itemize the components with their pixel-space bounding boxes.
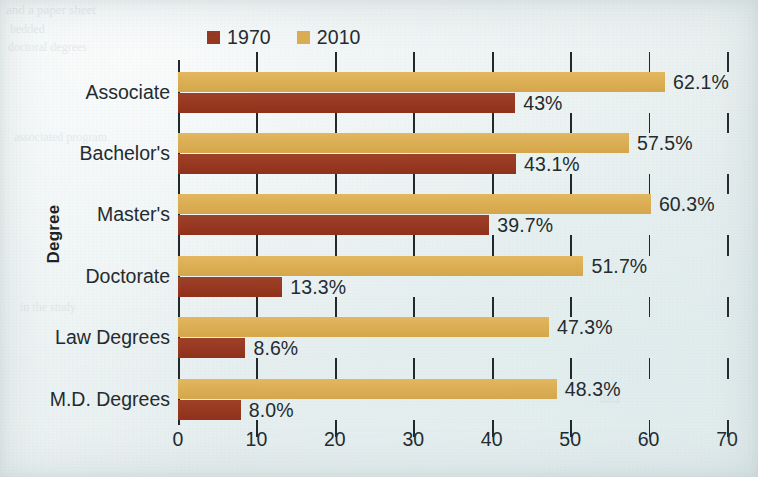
x-tick-label-70: 70 — [716, 430, 738, 450]
gridline-30 — [413, 113, 415, 133]
bar-label-2010-3: 51.7% — [591, 257, 647, 277]
gridline-20 — [335, 235, 337, 256]
x-tick-label-40: 40 — [481, 430, 503, 450]
x-tick-label-50: 50 — [559, 430, 581, 450]
gridline-50 — [570, 297, 572, 317]
gridline-70 — [727, 174, 729, 194]
gridline-70 — [727, 358, 729, 379]
bar-label-2010-4: 47.3% — [557, 318, 613, 338]
bar-label-1970-1: 43.1% — [524, 155, 580, 175]
y-axis-line — [178, 60, 180, 425]
bar-group-law-degrees: 47.3%8.6% — [178, 317, 727, 358]
legend-item-1970: 1970 — [207, 26, 271, 49]
bleed-text-2: doctoral degrees — [8, 40, 87, 55]
gridline-40 — [492, 358, 494, 379]
bar-2010-5 — [178, 379, 557, 399]
bleed-text-0: and a paper sheet — [6, 2, 96, 18]
category-label-1: Bachelor's — [80, 144, 170, 164]
bar-1970-2 — [178, 215, 489, 235]
gridline-40 — [492, 235, 494, 256]
bar-1970-4 — [178, 338, 245, 358]
x-tick-top-70 — [727, 52, 729, 66]
gridline-30 — [413, 358, 415, 379]
gridline-30 — [413, 297, 415, 317]
gridline-50 — [570, 174, 572, 194]
gridline-10 — [256, 235, 258, 256]
gridline-10 — [256, 358, 258, 379]
gridline-10 — [256, 113, 258, 133]
legend-item-2010: 2010 — [297, 26, 361, 49]
gridline-60 — [649, 358, 651, 379]
bar-label-1970-4: 8.6% — [253, 339, 298, 359]
category-label-2: Master's — [97, 205, 170, 225]
bar-label-1970-5: 8.0% — [249, 401, 294, 421]
bar-2010-0 — [178, 72, 665, 92]
gridline-20 — [335, 174, 337, 194]
gridline-10 — [256, 297, 258, 317]
x-tick-top-40 — [492, 52, 494, 66]
gridline-20 — [335, 113, 337, 133]
bar-label-2010-0: 62.1% — [673, 73, 729, 93]
legend-label-2010: 2010 — [317, 26, 361, 49]
bar-label-2010-2: 60.3% — [659, 195, 715, 215]
gridline-60 — [649, 235, 651, 256]
gridline-40 — [492, 297, 494, 317]
bar-group-master-s: 60.3%39.7% — [178, 194, 727, 235]
x-tick-top-20 — [335, 52, 337, 66]
bar-label-1970-3: 13.3% — [290, 278, 346, 298]
x-tick-top-30 — [413, 52, 415, 66]
chart-legend: 1970 2010 — [207, 26, 361, 49]
gridline-70 — [727, 235, 729, 256]
legend-swatch-2010 — [297, 31, 310, 44]
category-label-0: Associate — [85, 83, 170, 103]
category-label-5: M.D. Degrees — [50, 390, 170, 410]
x-tick-top-10 — [256, 52, 258, 66]
bar-2010-3 — [178, 256, 583, 276]
bar-group-associate: 62.1%43% — [178, 72, 727, 113]
gridline-40 — [492, 113, 494, 133]
gridline-70 — [727, 113, 729, 133]
gridline-20 — [335, 297, 337, 317]
bar-group-bachelor-s: 57.5%43.1% — [178, 133, 727, 174]
gridline-10 — [256, 174, 258, 194]
x-tick-label-30: 30 — [402, 430, 424, 450]
bar-group-m-d-degrees: 48.3%8.0% — [178, 379, 727, 420]
category-label-3: Doctorate — [85, 267, 170, 287]
category-label-4: Law Degrees — [55, 328, 170, 348]
bar-2010-4 — [178, 317, 549, 337]
y-axis-category-labels: AssociateBachelor'sMaster'sDoctorateLaw … — [0, 66, 170, 425]
gridline-20 — [335, 358, 337, 379]
gridline-50 — [570, 113, 572, 133]
x-tick-top-60 — [649, 52, 651, 66]
bar-1970-3 — [178, 277, 282, 297]
x-tick-label-0: 0 — [173, 430, 184, 450]
gridline-50 — [570, 358, 572, 379]
bar-label-2010-1: 57.5% — [637, 134, 693, 154]
bar-label-2010-5: 48.3% — [565, 380, 621, 400]
x-tick-label-10: 10 — [246, 430, 268, 450]
bleed-text-1: bedded — [10, 22, 45, 37]
bar-group-doctorate: 51.7%13.3% — [178, 256, 727, 297]
bar-1970-5 — [178, 400, 241, 420]
legend-label-1970: 1970 — [227, 26, 271, 49]
gridline-40 — [492, 174, 494, 194]
x-tick-label-20: 20 — [324, 430, 346, 450]
gridline-30 — [413, 235, 415, 256]
gridline-60 — [649, 113, 651, 133]
gridline-70 — [727, 297, 729, 317]
bar-label-1970-2: 39.7% — [497, 216, 553, 236]
bar-2010-2 — [178, 194, 651, 214]
chart-page: and a paper sheetbeddeddoctoral degreesa… — [0, 0, 758, 477]
bar-2010-1 — [178, 133, 629, 153]
gridline-50 — [570, 235, 572, 256]
gridline-60 — [649, 297, 651, 317]
plot-area: 62.1%43%57.5%43.1%60.3%39.7%51.7%13.3%47… — [178, 66, 727, 425]
bar-1970-0 — [178, 93, 515, 113]
x-tick-top-50 — [570, 52, 572, 66]
bar-1970-1 — [178, 154, 516, 174]
x-tick-label-60: 60 — [638, 430, 660, 450]
bar-label-1970-0: 43% — [523, 94, 562, 114]
legend-swatch-1970 — [207, 31, 220, 44]
gridline-60 — [649, 174, 651, 194]
gridline-30 — [413, 174, 415, 194]
